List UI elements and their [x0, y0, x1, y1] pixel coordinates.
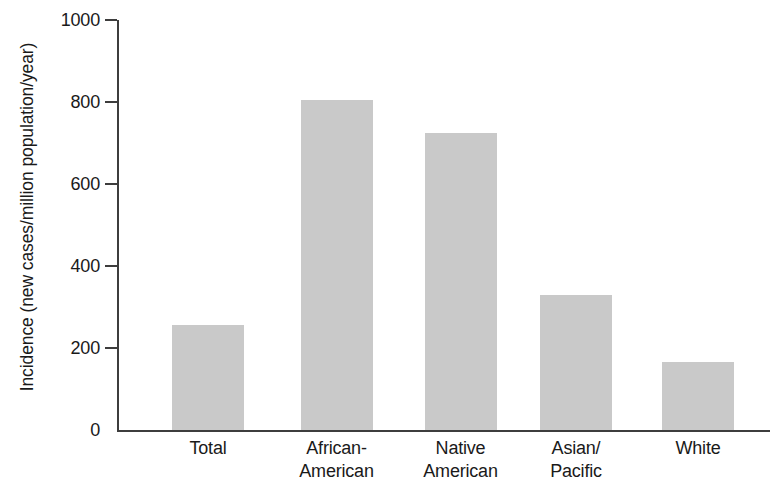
y-tick-mark: [105, 101, 117, 103]
x-axis-label-line: Asian/: [506, 437, 646, 460]
y-tick-label: 200: [30, 338, 100, 359]
bar: [662, 362, 734, 430]
x-axis-label: African-American: [267, 437, 407, 483]
y-tick-mark: [105, 19, 117, 21]
plot-area: [117, 20, 770, 430]
y-tick-label: 0: [30, 420, 100, 441]
x-axis-label: Total: [138, 437, 278, 460]
bar: [172, 325, 244, 430]
y-tick-label: 600: [30, 174, 100, 195]
y-tick-label: 400: [30, 256, 100, 277]
y-tick-mark: [105, 265, 117, 267]
bar-chart: Incidence (new cases/million population/…: [0, 0, 773, 504]
x-axis-label-line: Total: [138, 437, 278, 460]
bar: [301, 100, 373, 430]
x-axis-line: [117, 430, 770, 432]
y-tick-label: 1000: [30, 10, 100, 31]
x-axis-label-line: White: [628, 437, 768, 460]
y-tick-mark: [105, 183, 117, 185]
x-axis-label-line: Pacific: [506, 460, 646, 483]
y-axis-title: Incidence (new cases/million population/…: [14, 2, 40, 432]
bar: [540, 295, 612, 430]
bar: [425, 133, 497, 430]
x-axis-label-line: African-: [267, 437, 407, 460]
x-axis-label-line: American: [267, 460, 407, 483]
y-tick-label: 800: [30, 92, 100, 113]
x-axis-label: Asian/Pacific: [506, 437, 646, 483]
y-tick-mark: [105, 347, 117, 349]
x-axis-label: White: [628, 437, 768, 460]
